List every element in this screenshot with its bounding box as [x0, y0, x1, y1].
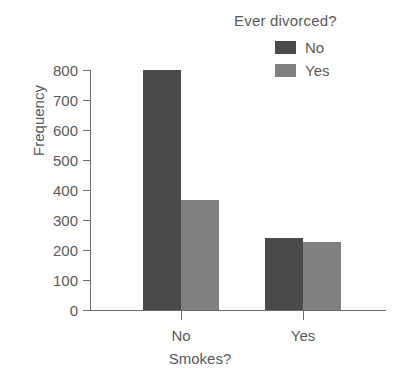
x-tick-label: No: [171, 327, 190, 344]
y-tick-label: 0: [32, 303, 78, 318]
x-axis-line: [90, 310, 386, 311]
bar-yes-yes: [303, 242, 341, 310]
y-axis-title: Frequency: [30, 51, 47, 191]
legend-swatch-no: [275, 41, 296, 54]
bar-chart: Ever divorced? No Yes 010020030040050060…: [0, 0, 400, 381]
bar-yes-no: [265, 238, 303, 310]
y-tick-mark: [83, 310, 91, 311]
x-tick-mark: [303, 311, 304, 320]
y-tick-label: 200: [32, 243, 78, 258]
x-tick-label: Yes: [291, 327, 315, 344]
bar-no-yes: [181, 200, 219, 310]
x-axis-title: Smokes?: [0, 350, 400, 367]
y-tick-label: 100: [32, 273, 78, 288]
plot-area: [90, 70, 330, 310]
bar-no-no: [143, 70, 181, 310]
legend-label-no: No: [305, 40, 324, 55]
y-tick-label: 300: [32, 213, 78, 228]
legend-entry-no: No: [275, 36, 396, 59]
legend-title: Ever divorced?: [228, 12, 396, 29]
x-tick-mark: [181, 311, 182, 320]
